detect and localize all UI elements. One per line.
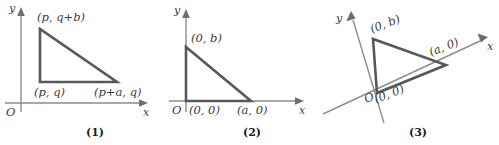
- panel-1-vertex-label-bottom-right: (p+a, q): [94, 85, 142, 99]
- panel-3-x-axis-label: x: [487, 40, 494, 53]
- panel-2-triangle: [186, 47, 251, 101]
- panel-2-x-axis-label: x: [299, 104, 306, 117]
- panel-3-vertex-label-bottom-right: (a, 0): [427, 35, 460, 59]
- panel-2-vertex-label-top: (0, b): [191, 31, 222, 45]
- panel-2-origin-label: O: [172, 103, 182, 117]
- panel-2-diagram: y x O (0, b) (0, 0) (a, 0): [165, 0, 325, 125]
- panel-3-y-axis-arrow: [346, 11, 355, 21]
- panel-2-y-axis-label: y: [173, 4, 181, 17]
- panel-1-vertex-label-top: (p, q+b): [37, 10, 85, 24]
- figure-root: y x O (p, q+b) (p, q) (p+a, q) y x O (0,…: [0, 0, 499, 145]
- panel-3-y-axis-label: y: [335, 12, 343, 25]
- panel-2-caption: (2): [232, 126, 272, 139]
- panel-3-diagram: y x O (0, b) (0, 0) (a, 0): [320, 0, 499, 125]
- panel-3-vertex-label-top: (0, b): [368, 12, 402, 36]
- panel-3-caption: (3): [398, 126, 438, 139]
- panel-1-y-axis-label: y: [8, 2, 16, 15]
- panel-1-vertex-label-bottom-left: (p, q): [34, 85, 65, 99]
- panel-1-x-axis-label: x: [143, 106, 150, 119]
- panel-3-y-axis: [353, 20, 384, 123]
- panel-1-y-axis-arrow: [17, 7, 25, 16]
- panel-1-triangle: [40, 29, 117, 82]
- panel-2-vertex-label-bottom-right: (a, 0): [237, 103, 267, 117]
- panel-2-vertex-label-bottom-left: (0, 0): [189, 103, 220, 117]
- panel-1-diagram: y x O (p, q+b) (p, q) (p+a, q): [0, 0, 165, 125]
- panel-1-caption: (1): [75, 126, 115, 139]
- panel-1-origin-label: O: [6, 105, 16, 119]
- panel-3-x-axis: [323, 41, 480, 114]
- panel-2-y-axis-arrow: [182, 9, 190, 18]
